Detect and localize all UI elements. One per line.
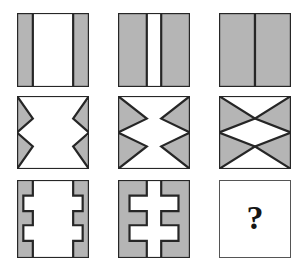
vertical-bars-merged [219,13,291,87]
vertical-bars-narrow-graphic [17,13,89,87]
combs-narrow [17,180,89,258]
combs-narrow-graphic [17,180,89,258]
combs-wide-graphic [118,180,190,258]
combs-wide [118,180,190,258]
vertical-bars-narrow [17,13,89,87]
triangles-wide [118,96,190,169]
vertical-bars-merged-graphic [219,13,291,87]
vertical-bars-wide-graphic [118,13,190,87]
triangles-narrow [17,96,89,169]
triangles-merged [219,96,291,169]
question-mark: ? [220,181,290,257]
answer-slot[interactable]: ? [219,180,291,258]
triangles-wide-graphic [118,96,190,169]
vertical-bars-wide [118,13,190,87]
triangles-narrow-graphic [17,96,89,169]
triangles-merged-graphic [219,96,291,169]
matrix-puzzle: ? [0,0,301,272]
